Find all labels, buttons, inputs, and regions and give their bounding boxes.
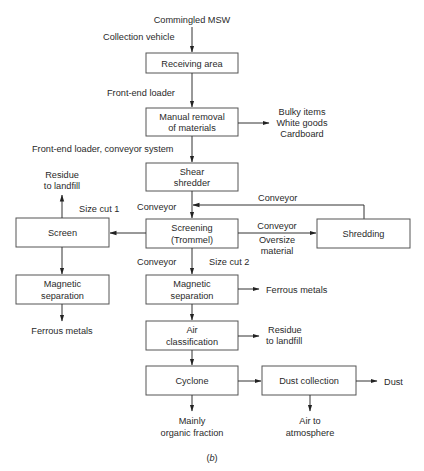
svg-text:Shredding: Shredding [343, 229, 385, 239]
label-collection-vehicle: Collection vehicle [103, 32, 175, 42]
output-dust: Dust [384, 377, 403, 387]
svg-text:shredder: shredder [174, 178, 210, 188]
box-manual-removal: Manual removal of materials [146, 108, 238, 136]
label-conveyor-to-screening: Conveyor [137, 202, 176, 212]
svg-text:Screen: Screen [48, 228, 77, 238]
output-manual-removal: Bulky items White goods Cardboard [276, 107, 327, 139]
svg-text:Oversize: Oversize [259, 235, 295, 245]
svg-text:atmosphere: atmosphere [286, 428, 335, 438]
svg-text:to landfill: to landfill [266, 336, 302, 346]
svg-text:Magnetic: Magnetic [44, 279, 82, 289]
svg-text:Air to: Air to [299, 416, 320, 426]
label-conveyor-to-magnetic: Conveyor [137, 257, 176, 267]
svg-text:Screening: Screening [171, 223, 212, 233]
box-cyclone: Cyclone [146, 366, 238, 395]
svg-text:Bulky items: Bulky items [279, 107, 326, 117]
arrow-shredding-feedback [193, 205, 364, 219]
svg-text:Magnetic: Magnetic [173, 279, 211, 289]
output-air-to-atmosphere: Air to atmosphere [286, 416, 335, 438]
box-screen: Screen [16, 218, 109, 247]
label-oversize-material: Oversize material [259, 235, 295, 256]
svg-text:Shear: Shear [180, 167, 205, 177]
label-size-cut-1: Size cut 1 [79, 204, 119, 214]
svg-text:separation: separation [41, 291, 84, 301]
svg-text:Receiving area: Receiving area [161, 59, 223, 69]
box-magnetic-separation-main: Magnetic separation [146, 275, 238, 304]
input-label: Commingled MSW [154, 15, 231, 25]
svg-text:classification: classification [166, 337, 218, 347]
box-shear-shredder: Shear shredder [146, 163, 238, 191]
svg-text:to landfill: to landfill [44, 181, 80, 191]
svg-text:Cyclone: Cyclone [175, 376, 208, 386]
label-front-end-loader-conveyor: Front-end loader, conveyor system [32, 144, 174, 154]
label-conveyor-to-shredding: Conveyor [257, 221, 296, 231]
box-shredding: Shredding [317, 219, 410, 248]
box-magnetic-separation-left: Magnetic separation [16, 275, 109, 304]
svg-text:White goods: White goods [276, 118, 327, 128]
output-ferrous-metals-main: Ferrous metals [266, 285, 328, 295]
box-dust-collection: Dust collection [262, 366, 356, 395]
svg-text:Mainly: Mainly [179, 416, 206, 426]
svg-text:Residue: Residue [45, 170, 79, 180]
svg-text:Dust collection: Dust collection [279, 376, 339, 386]
flow-diagram: Commingled MSW Collection vehicle Receiv… [0, 0, 424, 471]
svg-text:Residue: Residue [268, 325, 302, 335]
output-ferrous-metals-left: Ferrous metals [31, 326, 93, 336]
svg-text:Manual removal: Manual removal [159, 112, 224, 122]
svg-text:separation: separation [171, 291, 214, 301]
box-screening: Screening (Trommel) [146, 219, 238, 248]
svg-text:(Trommel): (Trommel) [171, 235, 213, 245]
svg-text:of materials: of materials [168, 123, 216, 133]
output-air-residue: Residue to landfill [266, 325, 302, 346]
svg-text:organic fraction: organic fraction [161, 428, 224, 438]
svg-text:Air: Air [186, 325, 197, 335]
figure-caption: (b) [206, 453, 217, 463]
box-air-classification: Air classification [146, 321, 238, 350]
svg-text:material: material [261, 246, 294, 256]
svg-text:Cardboard: Cardboard [280, 129, 323, 139]
output-organic-fraction: Mainly organic fraction [161, 416, 224, 438]
label-front-end-loader: Front-end loader [107, 88, 175, 98]
label-conveyor-feedback: Conveyor [258, 193, 297, 203]
label-size-cut-2: Size cut 2 [209, 257, 249, 267]
output-screen-residue: Residue to landfill [44, 170, 80, 191]
box-receiving-area: Receiving area [146, 53, 238, 73]
